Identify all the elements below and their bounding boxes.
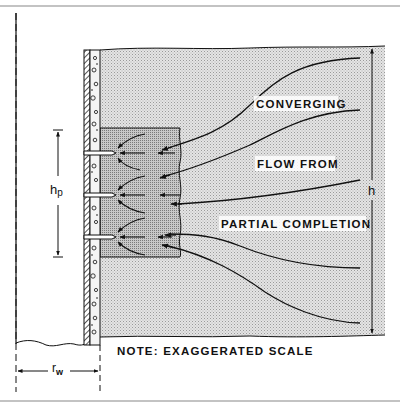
caption-flow-from: FLOW FROM [255, 156, 339, 171]
label-partial-completion: PARTIAL COMPLETION [221, 218, 371, 230]
partial-completion-diagram: CONVERGING FLOW FROM PARTIAL COMPLETION … [0, 0, 400, 409]
note-exaggerated-scale: NOTE: EXAGGERATED SCALE [117, 345, 314, 357]
h-label: h [368, 183, 375, 198]
perforation-1 [84, 151, 116, 155]
perforation-3 [84, 235, 116, 239]
hp-label: hp [50, 182, 63, 198]
label-converging: CONVERGING [256, 98, 347, 110]
wellbore [16, 13, 86, 346]
caption-partial-completion: PARTIAL COMPLETION [219, 216, 371, 231]
perforation-2 [84, 193, 116, 197]
label-flow-from: FLOW FROM [257, 158, 339, 170]
caption-converging: CONVERGING [254, 96, 347, 111]
rw-label: rw [52, 361, 64, 377]
